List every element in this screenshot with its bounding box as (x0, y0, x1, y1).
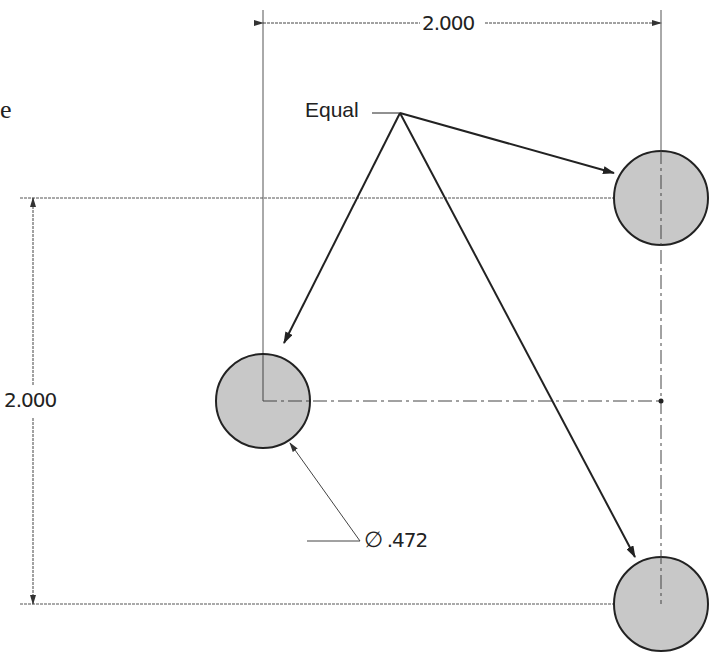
diameter-symbol: ∅ (364, 527, 382, 552)
drawing-canvas (0, 0, 724, 655)
page-text-fragment: e (0, 95, 12, 125)
equal-relation-label[interactable]: Equal (305, 98, 359, 122)
centerlines (263, 150, 661, 604)
vertical-dimension-value[interactable]: 2.000 (2, 388, 58, 412)
diameter-value: .472 (387, 528, 428, 552)
horizontal-dimension-value[interactable]: 2.000 (420, 11, 476, 35)
diameter-leader (290, 443, 360, 541)
center-point (659, 399, 664, 404)
equal-leaders (284, 113, 635, 557)
diameter-callout[interactable]: ∅ .472 (364, 527, 427, 552)
